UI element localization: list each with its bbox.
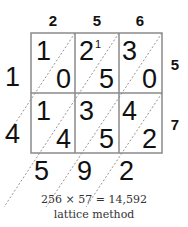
result-digit: 1 — [5, 62, 20, 92]
cell-ones-digit: 4 — [56, 124, 71, 154]
multiplicand-digits: 2 5 6 — [49, 12, 144, 29]
cell-row-2: 1 4 3 5 4 2 — [36, 96, 157, 154]
cell-row-1: 1 0 2 1 5 3 0 — [36, 36, 157, 94]
cell-tens-digit: 4 — [122, 96, 137, 126]
cell-tens-digit: 1 — [36, 36, 51, 66]
lattice-diagram: 2 5 6 5 7 1 0 2 1 5 3 0 1 4 3 5 4 2 1 4 … — [0, 0, 188, 227]
multiplier-digit: 5 — [171, 56, 179, 73]
result-digit: 5 — [34, 156, 49, 186]
bottom-result-digits: 5 9 2 — [34, 156, 134, 186]
left-result-digits: 1 4 — [5, 62, 20, 149]
cell-tens-digit: 3 — [79, 96, 94, 126]
result-digit: 4 — [5, 119, 20, 149]
cell-tens-digit: 1 — [36, 96, 51, 126]
multiplier-digits: 5 7 — [171, 56, 179, 133]
equation-caption: 256 × 57 = 14,592 — [41, 193, 147, 206]
multiplicand-digit: 5 — [93, 12, 101, 29]
cell-tens-digit: 2 — [79, 36, 94, 66]
method-title: lattice method — [54, 208, 135, 221]
result-digit: 9 — [77, 156, 92, 186]
cell-ones-digit: 0 — [142, 64, 157, 94]
carry-digit: 1 — [95, 38, 101, 50]
multiplicand-digit: 2 — [49, 12, 57, 29]
result-digit: 2 — [119, 156, 134, 186]
cell-tens-digit: 3 — [122, 36, 137, 66]
cell-ones-digit: 2 — [142, 124, 157, 154]
cell-ones-digit: 0 — [56, 64, 71, 94]
multiplier-digit: 7 — [171, 116, 179, 133]
cell-ones-digit: 5 — [99, 64, 114, 94]
cell-ones-digit: 5 — [99, 124, 114, 154]
multiplicand-digit: 6 — [136, 12, 144, 29]
